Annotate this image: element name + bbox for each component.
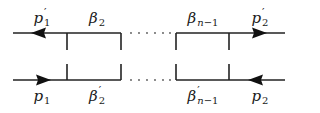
label-beta-2-prime: β′2 [89, 88, 105, 106]
label-p1: p1 [34, 88, 51, 106]
arrow-left-icon [248, 75, 263, 86]
label-beta-n-1: βn−1 [188, 10, 219, 28]
label-beta-n-1-prime: β′n−1 [188, 88, 219, 106]
arrow-right-icon [252, 28, 267, 39]
label-beta-2: β2 [89, 10, 105, 28]
arrow-right-icon [36, 75, 51, 86]
label-p1-prime: p′1 [34, 10, 51, 28]
label-p2: p2 [252, 88, 269, 106]
ellipsis-bottom [130, 79, 171, 81]
label-p2-prime: p′2 [252, 10, 269, 28]
ellipsis-top [130, 32, 171, 34]
arrow-left-icon [31, 28, 46, 39]
